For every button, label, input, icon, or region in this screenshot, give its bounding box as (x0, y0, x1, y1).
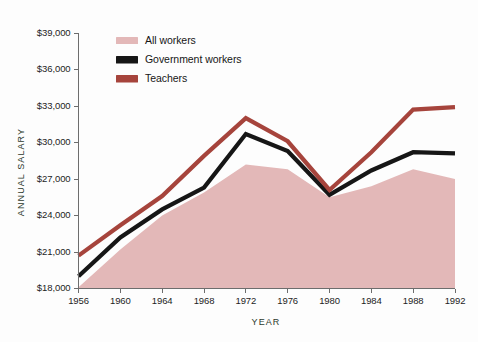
y-axis-title: ANNUAL SALARY (16, 128, 26, 216)
y-tick-label: $27,000 (37, 173, 71, 184)
legend-label-all-workers: All workers (145, 34, 196, 46)
y-tick-label: $18,000 (37, 282, 71, 293)
y-tick-label: $33,000 (37, 100, 71, 111)
x-tick-label: 1988 (403, 295, 424, 306)
x-tick-label: 1972 (235, 295, 256, 306)
y-tick-label: $36,000 (37, 63, 71, 74)
y-tick-label: $21,000 (37, 246, 71, 257)
x-tick-label: 1976 (277, 295, 298, 306)
x-tick-label: 1956 (68, 295, 89, 306)
x-tick-label: 1992 (445, 295, 466, 306)
chart-container: $18,000$21,000$24,000$27,000$30,000$33,0… (0, 0, 478, 342)
salary-line-chart: $18,000$21,000$24,000$27,000$30,000$33,0… (0, 0, 478, 342)
y-tick-label: $39,000 (37, 27, 71, 38)
y-tick-label: $30,000 (37, 136, 71, 147)
legend-swatch-all-workers (116, 37, 138, 44)
x-tick-label: 1960 (110, 295, 131, 306)
x-axis-title: YEAR (252, 317, 281, 327)
legend-swatch-teachers (116, 75, 138, 83)
x-tick-label: 1968 (194, 295, 215, 306)
legend-swatch-government-workers (116, 56, 138, 64)
legend-label-government-workers: Government workers (145, 53, 242, 65)
x-tick-label: 1984 (361, 295, 382, 306)
x-tick-label: 1980 (319, 295, 340, 306)
y-tick-label: $24,000 (37, 209, 71, 220)
x-tick-label: 1964 (152, 295, 173, 306)
legend-label-teachers: Teachers (145, 72, 187, 84)
